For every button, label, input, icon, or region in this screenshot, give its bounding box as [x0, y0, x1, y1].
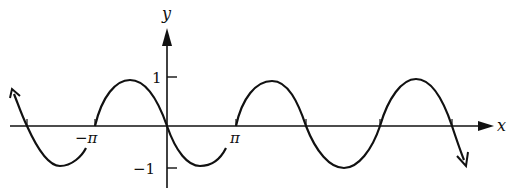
tick-label-pi: π: [229, 129, 241, 147]
graph: x y 1 −1 −π π: [0, 0, 508, 195]
x-axis-arrow-icon: [478, 121, 494, 131]
curve-segment-middle: [95, 80, 226, 166]
tick-label-y-neg1: −1: [133, 160, 155, 178]
tick-label-y-1: 1: [152, 69, 162, 87]
graph-svg: x y 1 −1 −π π: [0, 0, 508, 195]
y-axis-label: y: [161, 4, 172, 23]
x-axis-label: x: [497, 116, 506, 135]
tick-label-neg-pi: −π: [75, 129, 99, 147]
y-axis-arrow-icon: [162, 28, 172, 46]
curve-segment-right: [236, 79, 464, 168]
